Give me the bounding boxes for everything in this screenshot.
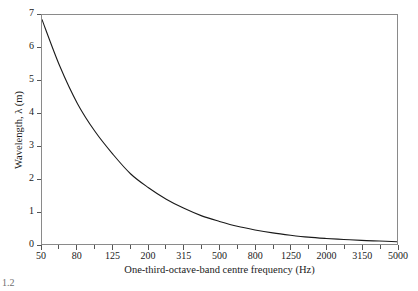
y-tick-label: 6 bbox=[16, 40, 34, 51]
y-tick-label: 7 bbox=[16, 7, 34, 18]
x-tick-mark bbox=[94, 245, 95, 249]
x-tick-mark bbox=[344, 245, 345, 249]
x-tick-mark bbox=[165, 245, 166, 249]
curve-path bbox=[42, 20, 397, 242]
x-tick-mark bbox=[201, 245, 202, 249]
y-axis-title-text: Wavelength, λ (m) bbox=[13, 90, 24, 168]
x-tick-label: 1250 bbox=[271, 250, 311, 261]
x-tick-label: 200 bbox=[128, 250, 168, 261]
y-tick-label: 1 bbox=[16, 205, 34, 216]
x-tick-label: 3150 bbox=[342, 250, 382, 261]
figure-wavelength-vs-frequency: Wavelength, λ (m) 01234567 5080125200315… bbox=[0, 0, 418, 291]
x-tick-label: 125 bbox=[92, 250, 132, 261]
y-tick-label: 5 bbox=[16, 73, 34, 84]
caption-fragment-text: 1.2 bbox=[2, 279, 15, 288]
y-tick-label: 0 bbox=[16, 238, 34, 249]
x-tick-label: 500 bbox=[200, 250, 240, 261]
x-tick-label: 50 bbox=[21, 250, 61, 261]
x-tick-label: 315 bbox=[164, 250, 204, 261]
x-tick-mark bbox=[380, 245, 381, 249]
caption-fragment: 1.2 bbox=[2, 279, 42, 291]
y-tick-label: 2 bbox=[16, 172, 34, 183]
y-tick-label: 4 bbox=[16, 106, 34, 117]
x-tick-mark bbox=[273, 245, 274, 249]
y-tick-label: 3 bbox=[16, 139, 34, 150]
x-tick-mark bbox=[237, 245, 238, 249]
x-tick-label: 2000 bbox=[307, 250, 347, 261]
x-tick-label: 800 bbox=[235, 250, 275, 261]
x-tick-label: 80 bbox=[57, 250, 97, 261]
x-tick-label: 5000 bbox=[378, 250, 418, 261]
x-axis-title: One-third-octave-band centre frequency (… bbox=[41, 264, 398, 275]
wavelength-curve bbox=[42, 15, 397, 244]
x-tick-mark bbox=[58, 245, 59, 249]
x-tick-mark bbox=[130, 245, 131, 249]
plot-area bbox=[41, 14, 398, 245]
x-tick-mark bbox=[308, 245, 309, 249]
